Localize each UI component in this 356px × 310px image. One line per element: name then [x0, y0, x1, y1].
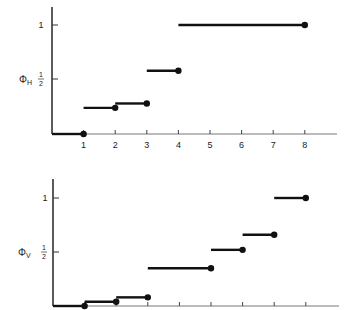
y-tick-label-1: 1	[38, 20, 43, 30]
step-series-h	[52, 22, 308, 137]
endpoint-dot	[80, 131, 86, 137]
x-tick-label: 7	[271, 140, 276, 150]
endpoint-dot	[113, 298, 119, 304]
chart-phi-v: 1 1 2 ΦV	[18, 179, 339, 309]
x-tick-label: 5	[207, 140, 212, 150]
x-tick-label: 6	[239, 140, 244, 150]
chart-phi-h: 1 1 2 ΦH 12345678	[19, 7, 337, 150]
endpoint-dot	[271, 232, 277, 238]
y-axis-label-phi-h: ΦH	[19, 74, 32, 86]
endpoint-dot	[302, 22, 308, 28]
x-tick-label: 4	[176, 140, 181, 150]
charts-canvas: 1 1 2 ΦH 12345678 1 1 2 ΦV	[0, 0, 356, 310]
x-ticks: 12345678	[81, 130, 307, 150]
y-axis-label-phi-v: ΦV	[18, 247, 31, 259]
endpoint-dot	[208, 265, 214, 271]
endpoint-dot	[145, 294, 151, 300]
endpoint-dot	[175, 68, 181, 74]
x-tick-label: 2	[113, 140, 118, 150]
endpoint-dot	[81, 303, 87, 309]
y-tick-label-half-den: 2	[39, 80, 43, 87]
x-tick-label: 3	[144, 140, 149, 150]
endpoint-dot	[144, 100, 150, 106]
x-tick-label: 1	[81, 140, 86, 150]
y-tick-label-half-num: 1	[42, 244, 46, 251]
endpoint-dot	[112, 105, 118, 111]
endpoint-dot	[239, 247, 245, 253]
endpoint-dot	[303, 195, 309, 201]
y-tick-label-half-num: 1	[39, 71, 43, 78]
x-tick-label: 8	[302, 140, 307, 150]
y-tick-label-1: 1	[42, 193, 47, 203]
step-series-v	[53, 195, 309, 309]
y-tick-label-half-den: 2	[42, 253, 46, 260]
